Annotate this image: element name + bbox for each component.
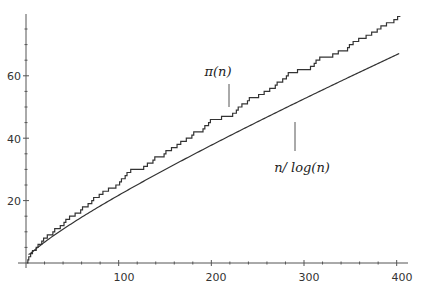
y-tick-label-40: 40: [7, 133, 21, 146]
y-tick-label-20: 20: [7, 195, 21, 208]
x-tick-label-400: 400: [392, 271, 413, 284]
y-tick-label-60: 60: [7, 70, 21, 83]
n-over-log-n-curve: [29, 54, 400, 255]
x-tick-label-100: 100: [114, 271, 135, 284]
chart-canvas: 100 200 300 400 20 40 60 π(n) n/ log(n): [0, 0, 434, 296]
pi-n-label: π(n): [203, 64, 231, 79]
pi-n-step-curve: [27, 17, 400, 263]
n-over-log-n-label: n/ log(n): [274, 160, 330, 175]
x-tick-label-300: 300: [299, 271, 320, 284]
x-tick-label-200: 200: [206, 271, 227, 284]
